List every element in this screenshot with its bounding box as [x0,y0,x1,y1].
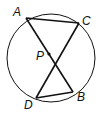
label-c: C [82,14,91,28]
label-b: B [77,90,85,104]
intersection-point-p [47,52,50,55]
geometry-diagram: A C P D B [0,0,102,114]
label-p: P [36,49,44,63]
segment-db [36,92,73,98]
label-a: A [12,5,21,19]
label-d: D [24,98,33,112]
